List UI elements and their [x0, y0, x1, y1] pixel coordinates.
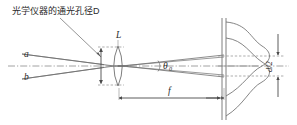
- aperture-caption: 光学仪器的通光孔径D: [12, 5, 100, 16]
- diagram-canvas: 光学仪器的通光孔径D a b L θ 0 f d/2: [0, 0, 297, 125]
- ray-label-a: a: [24, 49, 29, 59]
- ray-label-b: b: [24, 72, 29, 82]
- lens-label: L: [115, 30, 121, 40]
- ray-bundle-a: [22, 54, 118, 67]
- focal-length-label: f: [168, 86, 172, 96]
- separation-extension-lines: [218, 56, 285, 76]
- angle-subscript-label: 0: [169, 66, 172, 72]
- airy-curve-a: [226, 22, 270, 96]
- observation-screen: [222, 18, 226, 120]
- caption-leader-line: [60, 18, 101, 57]
- separation-label: d/2: [264, 60, 274, 72]
- airy-curve-b: [226, 38, 270, 116]
- optical-resolution-figure: 光学仪器的通光孔径D a b L θ 0 f d/2: [0, 0, 297, 125]
- angle-label: θ: [163, 61, 168, 71]
- ray-bundle-b: [22, 66, 118, 80]
